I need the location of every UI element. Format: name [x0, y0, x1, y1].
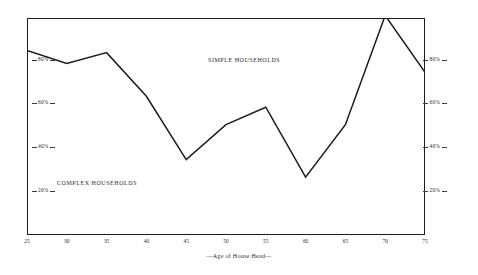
x-tick-35: 35 [104, 239, 109, 244]
x-tick-50: 50 [223, 239, 228, 244]
tick-dash-icon [423, 147, 428, 148]
x-tick-65: 65 [343, 239, 348, 244]
y-tick-left-20: 20% [30, 188, 56, 193]
x-tick-75: 75 [422, 239, 427, 244]
tick-dash-icon [50, 147, 55, 148]
y-tick-left-40: 40% [30, 144, 56, 149]
x-axis-title: —Age of House Head— [0, 253, 478, 259]
tick-dash-icon [423, 103, 428, 104]
tick-dash-icon [32, 60, 37, 61]
y-tick-right-60: 60% [422, 100, 448, 105]
series-simple-households-line [27, 18, 425, 235]
x-tick-70: 70 [382, 239, 387, 244]
x-tick-30: 30 [64, 239, 69, 244]
y-tick-right-80: 80% [422, 57, 448, 62]
x-tick-25: 25 [24, 239, 29, 244]
tick-dash-icon [50, 60, 55, 61]
tick-dash-icon [32, 147, 37, 148]
tick-dash-icon [423, 60, 428, 61]
y-tick-left-60: 60% [30, 100, 56, 105]
y-tick-right-20: 20% [422, 188, 448, 193]
tick-dash-icon [32, 103, 37, 104]
y-tick-right-40: 40% [422, 144, 448, 149]
tick-dash-icon [442, 103, 447, 104]
tick-dash-icon [32, 191, 37, 192]
y-tick-left-80: 80% [30, 57, 56, 62]
tick-dash-icon [442, 147, 447, 148]
tick-dash-icon [50, 191, 55, 192]
annotation-complex-households: COMPLEX HOUSEHOLDS [57, 180, 137, 186]
x-tick-55: 55 [263, 239, 268, 244]
x-tick-40: 40 [144, 239, 149, 244]
tick-dash-icon [442, 191, 447, 192]
tick-dash-icon [50, 103, 55, 104]
chart-figure: 80% 60% 40% 20% 80% 60% 40% 20% 25303540… [0, 0, 478, 275]
x-tick-45: 45 [183, 239, 188, 244]
tick-dash-icon [423, 191, 428, 192]
x-tick-60: 60 [303, 239, 308, 244]
annotation-simple-households: SIMPLE HOUSEHOLDS [208, 57, 280, 63]
tick-dash-icon [442, 60, 447, 61]
